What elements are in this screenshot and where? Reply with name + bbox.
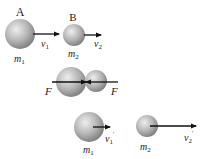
velocity-v1-prime-label: v1' [105,131,114,146]
mass-m2-label: m2 [68,48,79,61]
stage-during-collision: F F [44,67,118,97]
stage-after-collision: v1' m1 v2' m2 [74,112,196,157]
mass-m1-after-label: m1 [83,144,94,157]
force-right-label: F [110,85,118,97]
ball-b [63,24,85,46]
collision-diagram: A v1 m1 B v2 m2 F F v1' m1 v2' m2 [0,0,204,159]
mass-m1-label: m1 [14,53,25,66]
ball-2-colliding [85,70,107,92]
velocity-v2-label: v2 [94,38,102,51]
ball-a-label: A [16,5,25,19]
force-left-label: F [44,85,52,97]
velocity-v1-label: v1 [41,38,49,51]
stage-before-collision: A v1 m1 B v2 m2 [5,5,102,66]
velocity-v2-prime-label: v2' [184,130,193,145]
ball-a [5,19,35,49]
mass-m2-after-label: m2 [140,141,151,154]
ball-b-label: B [69,11,76,23]
